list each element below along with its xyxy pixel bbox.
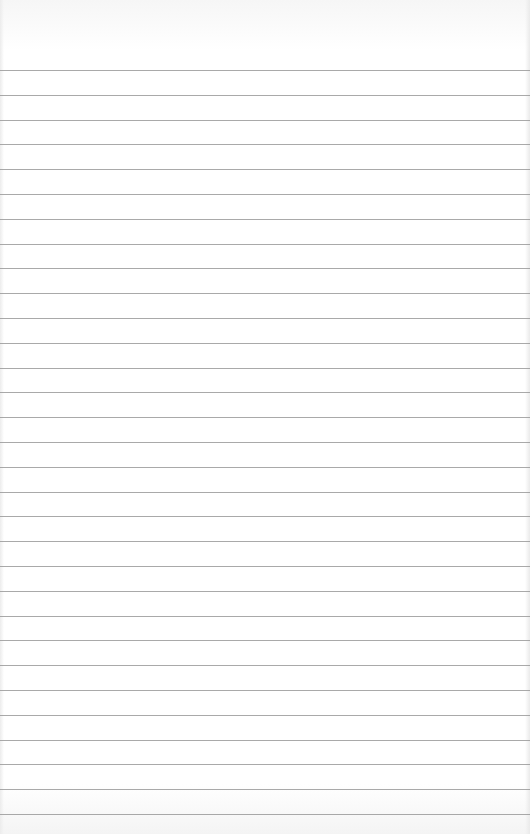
ruled-line bbox=[0, 566, 530, 567]
ruled-line bbox=[0, 789, 530, 790]
ruled-line bbox=[0, 442, 530, 443]
ruled-line bbox=[0, 144, 530, 145]
ruled-line bbox=[0, 120, 530, 121]
ruled-line bbox=[0, 368, 530, 369]
ruled-line bbox=[0, 516, 530, 517]
ruled-line bbox=[0, 70, 530, 71]
ruled-line bbox=[0, 392, 530, 393]
ruled-line bbox=[0, 665, 530, 666]
ruled-line bbox=[0, 318, 530, 319]
ruled-line bbox=[0, 690, 530, 691]
lined-paper-sheet bbox=[0, 0, 530, 834]
ruled-line bbox=[0, 616, 530, 617]
ruled-line bbox=[0, 467, 530, 468]
ruled-line bbox=[0, 244, 530, 245]
ruled-line bbox=[0, 219, 530, 220]
ruled-line bbox=[0, 293, 530, 294]
ruled-line bbox=[0, 268, 530, 269]
ruled-line bbox=[0, 95, 530, 96]
ruled-line bbox=[0, 541, 530, 542]
ruled-line bbox=[0, 417, 530, 418]
ruled-line bbox=[0, 640, 530, 641]
ruled-line bbox=[0, 814, 530, 815]
ruled-line bbox=[0, 343, 530, 344]
ruled-line bbox=[0, 764, 530, 765]
ruled-line bbox=[0, 194, 530, 195]
ruled-line bbox=[0, 169, 530, 170]
ruled-line bbox=[0, 591, 530, 592]
ruled-line bbox=[0, 715, 530, 716]
ruled-line bbox=[0, 492, 530, 493]
ruled-line bbox=[0, 740, 530, 741]
